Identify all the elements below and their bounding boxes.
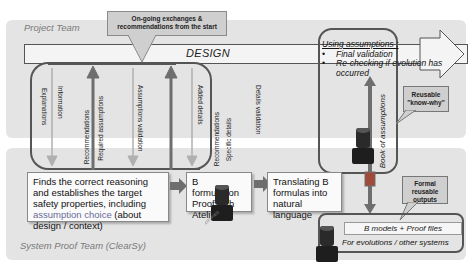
design-label: DESIGN bbox=[186, 47, 230, 59]
label-assumptions-validation: Assumptions validation bbox=[137, 85, 144, 151]
reusable-knowwhy-callout: Reusable "know-why" bbox=[403, 86, 449, 112]
using-assumptions-panel: Using assumptions : •Final validation •R… bbox=[322, 40, 462, 78]
b-models-bar: B models + Proof files bbox=[344, 222, 462, 235]
stamp-icon bbox=[346, 128, 378, 168]
ongoing-exchanges-text: On-going exchanges & recommendations fro… bbox=[117, 15, 217, 30]
label-added-details: Added details bbox=[197, 85, 204, 124]
label-required-assumptions: Required assumptions bbox=[97, 96, 104, 161]
project-team-label: Project Team bbox=[24, 22, 80, 33]
evolutions-text: For evolutions / other systems bbox=[342, 238, 449, 247]
using-assumptions-item-2: •Re-checking if evolution has occurred bbox=[322, 59, 444, 78]
translating-box: Translating B formulas into natural lang… bbox=[267, 172, 342, 212]
label-specific-details: Specific details bbox=[225, 118, 232, 161]
ongoing-exchanges-callout: On-going exchanges & recommendations fro… bbox=[107, 11, 227, 36]
formal-outputs-callout: Formal reusable outputs bbox=[402, 176, 448, 204]
book-of-assumptions-label: Book of assumptions bbox=[378, 94, 387, 168]
label-explanations: Explanations bbox=[41, 88, 48, 125]
proof-team-label: System Proof Team (ClearSy) bbox=[20, 240, 146, 251]
stamp-icon: CERTIFIED bbox=[205, 185, 237, 225]
assumption-choice-highlight: assumption choice bbox=[33, 209, 112, 220]
stamp-icon bbox=[310, 226, 342, 266]
knowwhy-pointer bbox=[396, 110, 426, 126]
callout-pointer bbox=[128, 35, 158, 63]
label-information: Information bbox=[57, 86, 64, 119]
reasoning-box: Finds the correct reasoning and establis… bbox=[27, 172, 169, 222]
label-recommendations-1: Recommendations bbox=[83, 110, 90, 164]
label-recommendations-2: Recommendations bbox=[213, 112, 220, 166]
label-details-validation: Details validation bbox=[255, 85, 262, 134]
